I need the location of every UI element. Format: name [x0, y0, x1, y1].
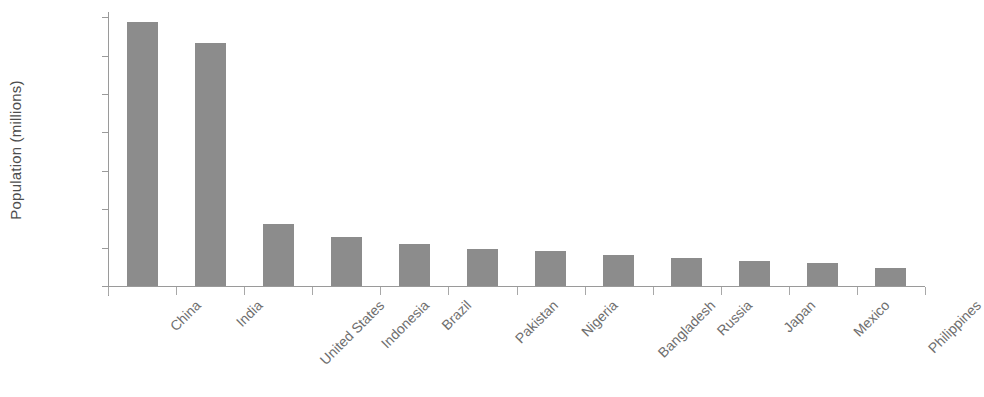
x-axis-tick-mark: [380, 287, 381, 295]
x-axis-tick-label: Mexico: [850, 297, 893, 340]
x-axis-tick-mark: [857, 287, 858, 295]
x-axis-tick-mark: [176, 287, 177, 295]
x-axis-tick-label: Brazil: [439, 297, 475, 333]
x-axis-tick-label: China: [167, 297, 204, 334]
x-axis-tick-mark: [108, 287, 109, 295]
x-axis-tick-label: United States: [317, 297, 388, 368]
y-axis-tick-mark: [102, 209, 108, 210]
x-axis-tick-mark: [585, 287, 586, 295]
x-axis-tick-mark: [789, 287, 790, 295]
x-axis-tick-mark: [312, 287, 313, 295]
x-axis-tick-mark: [653, 287, 654, 295]
x-axis-tick-mark: [448, 287, 449, 295]
y-axis-tick-mark: [102, 17, 108, 18]
y-axis-tick-mark: [102, 248, 108, 249]
x-axis-tick-label: Indonesia: [378, 297, 432, 351]
x-axis-tick-label: Russia: [713, 297, 755, 339]
y-axis-tick-mark: [102, 132, 108, 133]
y-axis-tick-mark: [102, 56, 108, 57]
x-axis-tick-label: Japan: [780, 297, 818, 335]
x-axis-tick-mark: [925, 287, 926, 295]
y-axis-tick-mark: [102, 94, 108, 95]
x-axis-tick-label: Nigeria: [578, 297, 621, 340]
y-axis-tick-mark: [102, 171, 108, 172]
x-axis-tick-label: Philippines: [925, 297, 984, 356]
x-axis-tick-mark: [517, 287, 518, 295]
x-axis-tick-mark: [244, 287, 245, 295]
x-axis-tick-label: Bangladesh: [654, 297, 718, 361]
x-axis-tick-label: India: [233, 297, 266, 330]
x-axis-tick-mark: [721, 287, 722, 295]
x-axis-tick-label: Pakistan: [512, 297, 561, 346]
